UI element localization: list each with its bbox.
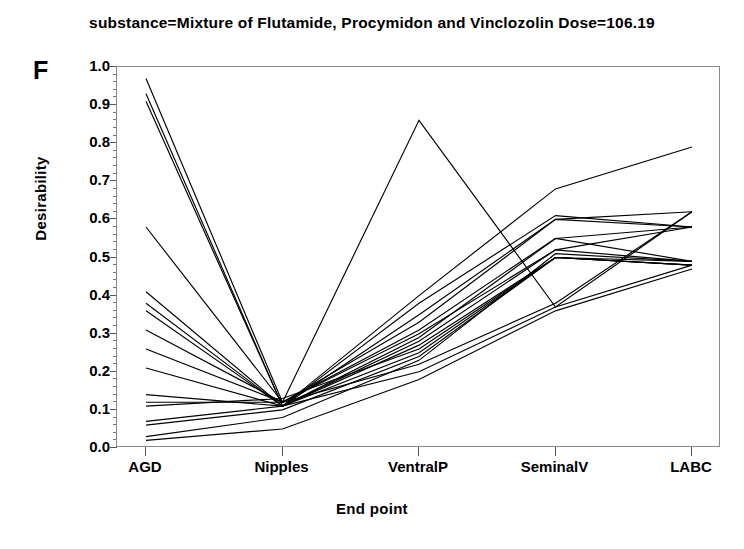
line-series [146, 94, 692, 406]
x-axis-tick-label: Nipples [222, 458, 342, 475]
chart-title: substance=Mixture of Flutamide, Procymid… [0, 14, 744, 32]
x-axis-tick-label: LABC [631, 458, 744, 475]
x-axis-tick-labels: AGDNipplesVentralPSeminalVLABC [116, 458, 720, 480]
chart-figure: substance=Mixture of Flutamide, Procymid… [0, 0, 744, 549]
x-axis-tick-label: AGD [85, 458, 205, 475]
panel-label: F [33, 58, 48, 83]
y-axis-tick-label: 0.7 [64, 172, 110, 187]
y-axis-tick-label: 0.8 [64, 134, 110, 149]
line-series [146, 147, 692, 406]
line-series [146, 269, 692, 440]
x-axis-tick-mark [145, 447, 146, 456]
y-axis-tick-label: 0.5 [64, 249, 110, 264]
y-axis-tick-label: 0.6 [64, 210, 110, 225]
y-axis-tick-label: 0.3 [64, 325, 110, 340]
x-axis-tick-mark [555, 447, 556, 456]
line-series-group [117, 67, 721, 448]
y-axis-tick-label: 0.9 [64, 96, 110, 111]
x-axis-tick-label: SeminalV [495, 458, 615, 475]
y-axis-tick-label: 0.1 [64, 401, 110, 416]
line-series [146, 216, 692, 407]
plot-area [116, 66, 720, 447]
x-axis-label: End point [0, 500, 744, 517]
y-axis-tick-label: 0.2 [64, 363, 110, 378]
y-axis-tick-labels: 0.00.10.20.30.40.50.60.70.80.91.0 [62, 66, 110, 447]
line-series [146, 238, 692, 402]
x-axis-tick-mark [282, 447, 283, 456]
x-axis-tick-mark [418, 447, 419, 456]
x-axis-tick-mark [691, 447, 692, 456]
y-axis-tick-label: 0.4 [64, 287, 110, 302]
y-axis-tick-label: 1.0 [64, 58, 110, 73]
x-axis-tick-marks [116, 447, 720, 456]
x-axis-tick-label: VentralP [358, 458, 478, 475]
line-series [146, 265, 692, 406]
y-axis-label: Desirability [32, 99, 49, 299]
y-axis-tick-label: 0.0 [64, 439, 110, 454]
